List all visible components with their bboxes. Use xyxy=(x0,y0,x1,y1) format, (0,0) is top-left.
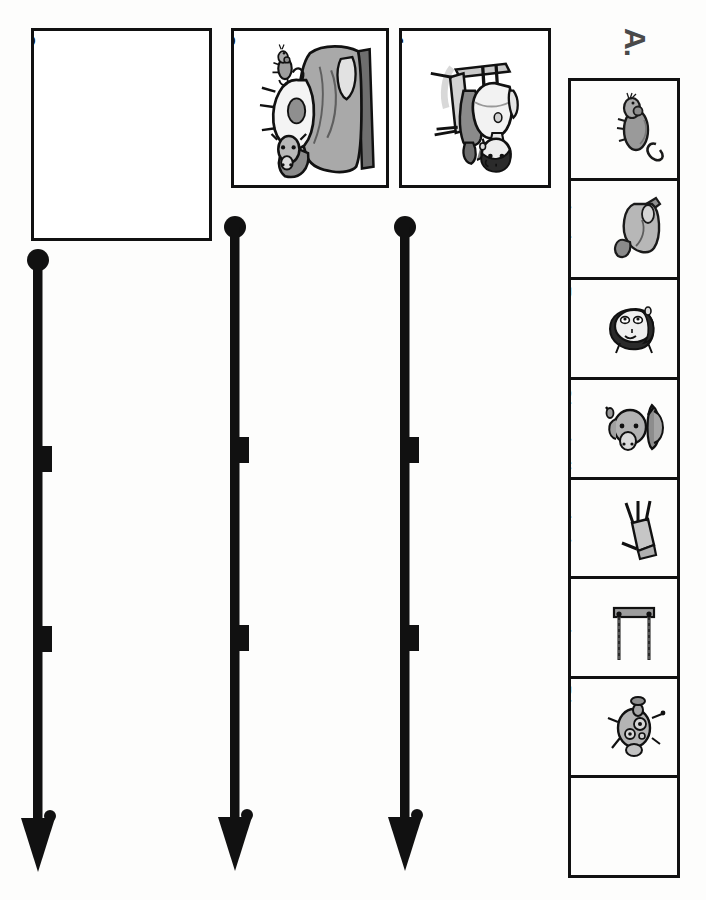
boy-face-illustration xyxy=(597,282,675,374)
cow-and-rat-on-bed-illustration xyxy=(234,31,386,185)
picture-prompt-number: 1. xyxy=(399,35,408,53)
word-bank-label: a chair xyxy=(571,486,575,551)
picture-prompt-number: 2. xyxy=(231,35,240,53)
word-bank-label: a rat xyxy=(571,87,575,131)
word-bank-label: Roger xyxy=(571,286,575,344)
word-bank-label: a swing xyxy=(571,585,575,658)
robot-illustration xyxy=(597,681,675,773)
word-bank-cell[interactable]: a rat xyxy=(571,81,677,181)
word-bank-label: a bed xyxy=(571,187,575,241)
answer-line-1[interactable] xyxy=(386,215,434,885)
picture-prompt-number: 3. xyxy=(31,35,40,53)
word-bank-cell[interactable]: Roger xyxy=(571,280,677,380)
word-bank-cell[interactable]: sat on xyxy=(571,778,677,875)
word-bank-cell[interactable]: Clarabelle xyxy=(571,380,677,480)
cow-head-illustration xyxy=(597,382,675,474)
word-bank-cell[interactable]: a bed xyxy=(571,181,677,281)
worksheet-page: A. a rat xyxy=(0,0,706,900)
swing-illustration xyxy=(597,581,675,673)
word-bank-cell[interactable]: Bleep xyxy=(571,679,677,779)
picture-prompt-2: 2. xyxy=(231,28,389,188)
word-bank-label: sat on xyxy=(571,784,575,843)
word-bank-label: Bleep xyxy=(571,685,575,740)
answer-line-2[interactable] xyxy=(216,215,264,885)
picture-prompt-1: 1. xyxy=(399,28,551,188)
picture-prompt-3[interactable]: 3. xyxy=(31,28,212,241)
word-bank-cell[interactable]: a chair xyxy=(571,480,677,580)
chair-illustration xyxy=(597,482,675,574)
bed-illustration xyxy=(597,183,675,275)
rat-illustration xyxy=(597,83,675,175)
section-label-a: A. xyxy=(618,28,652,56)
word-bank-label: Clarabelle xyxy=(571,386,575,480)
boy-sitting-on-chair-illustration xyxy=(402,31,548,185)
answer-line-3[interactable] xyxy=(19,248,67,888)
word-bank: a rat xyxy=(568,78,680,878)
word-bank-cell[interactable]: a swing xyxy=(571,579,677,679)
